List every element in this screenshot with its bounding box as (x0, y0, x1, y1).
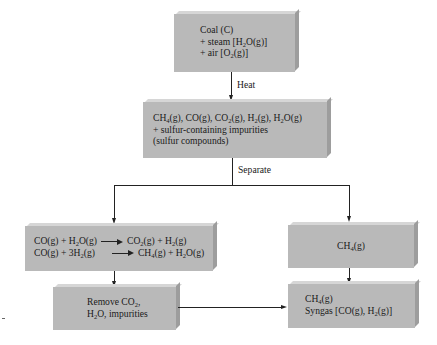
coal-input-box: Coal (C) + steam [H2O(g)] + air [O2(g)] (174, 14, 295, 72)
gas-mixture-box: CH4(g), CO(g), CO2(g), H2(g), H2O(g) + s… (143, 102, 327, 158)
remove-co2-line: Remove CO2, (87, 296, 176, 308)
product-methane-line: CH4(g) (305, 293, 415, 305)
reaction-2: CO(g) + 3H2(g)CH4(g) + H2O(g) (34, 247, 213, 259)
reaction-1: CO(g) + H2O(g)CO2(g) + H2(g) (34, 235, 213, 247)
shift-reactions-box: CO(g) + H2O(g)CO2(g) + H2(g) CO(g) + 3H2… (25, 226, 213, 271)
left-branch-line (114, 185, 115, 220)
methane-box: CH4(g) (288, 225, 414, 268)
methane-label: CH4(g) (288, 240, 414, 252)
remove-to-product-line (178, 307, 282, 308)
impurities-line: + sulfur-containing impurities (153, 124, 327, 136)
margin-tick-mark (2, 318, 5, 319)
sulfur-compounds-line: (sulfur compounds) (153, 135, 327, 147)
separate-branch-line (114, 185, 350, 186)
remove-impurities-box: Remove CO2, H2O, impurities (53, 287, 176, 330)
coal-line: Coal (C) (200, 24, 295, 36)
remove-h2o-line: H2O, impurities (87, 308, 176, 320)
product-syngas-line: Syngas [CO(g), H2(g)] (305, 305, 415, 317)
reaction-arrow-icon (112, 250, 134, 256)
air-line: + air [O2(g)] (200, 47, 295, 59)
separate-stem-line (232, 158, 233, 185)
gas-components-line: CH4(g), CO(g), CO2(g), H2(g), H2O(g) (153, 112, 327, 124)
steam-line: + steam [H2O(g)] (200, 36, 295, 48)
heat-label: Heat (237, 79, 255, 90)
separate-label: Separate (238, 164, 271, 175)
right-branch-line (349, 185, 350, 218)
reaction-arrow-icon (101, 239, 123, 245)
remove-to-product-arrow-head-icon (281, 305, 287, 309)
syngas-product-box: CH4(g) Syngas [CO(g), H2(g)] (288, 284, 415, 328)
heat-arrow-line (231, 72, 232, 96)
